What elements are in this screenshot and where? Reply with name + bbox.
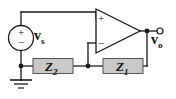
output-label-subscript: o — [158, 40, 163, 50]
circuit-diagram: + − + − vs vo Z2 Z1 — [0, 0, 176, 99]
impedance-label-z1-subscript: 1 — [124, 67, 128, 77]
impedance-label-z1: Z1 — [116, 60, 128, 76]
source-label-main: v — [34, 28, 41, 43]
source-label-subscript: s — [41, 36, 45, 46]
impedance-label-z2-main: Z — [45, 59, 53, 74]
source-label: vs — [34, 29, 45, 46]
circuit-schematic-canvas — [0, 0, 176, 99]
opamp-inverting-sign: − — [98, 38, 104, 49]
source-minus-sign: − — [18, 37, 24, 48]
ground-icon — [10, 80, 32, 88]
impedance-label-z2-subscript: 2 — [53, 67, 57, 77]
output-label: vo — [151, 33, 163, 50]
impedance-label-z2: Z2 — [45, 60, 57, 76]
opamp-noninverting-sign: + — [98, 13, 104, 24]
impedance-label-z1-main: Z — [116, 59, 124, 74]
junction-dot-feedback — [86, 64, 91, 69]
output-label-main: v — [151, 32, 158, 47]
junction-dot-output — [145, 29, 150, 34]
junction-dot-source-bottom — [19, 64, 24, 69]
